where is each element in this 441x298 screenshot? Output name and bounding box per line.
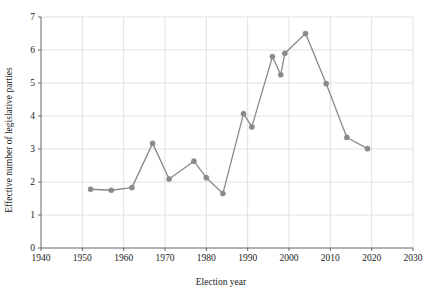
x-tick-label: 2020 (362, 253, 381, 263)
x-tick-label: 1960 (114, 253, 133, 263)
y-tick-label: 0 (30, 243, 35, 253)
x-tick-label: 1970 (156, 253, 175, 263)
data-point-marker (249, 124, 254, 129)
y-tick-label: 2 (30, 177, 35, 187)
y-tick-label: 5 (30, 78, 35, 88)
y-tick-label: 1 (30, 210, 35, 220)
chart-container: 01234567 1940195019601970198019902000201… (0, 0, 441, 298)
data-point-marker (278, 72, 283, 77)
y-tick-label: 6 (30, 45, 35, 55)
data-point-marker (191, 159, 196, 164)
x-tick-label: 2000 (280, 253, 299, 263)
data-point-marker (220, 191, 225, 196)
data-point-marker (282, 51, 287, 56)
y-tick-label: 4 (30, 111, 35, 121)
data-point-marker (303, 31, 308, 36)
data-point-marker (241, 111, 246, 116)
data-point-marker (344, 135, 349, 140)
x-tick-label: 1990 (238, 253, 257, 263)
x-tick-label: 1940 (32, 253, 51, 263)
y-axis-title: Effective number of legislative parties (4, 67, 14, 213)
data-point-marker (324, 81, 329, 86)
x-tick-label: 1980 (197, 253, 216, 263)
data-point-marker (270, 54, 275, 59)
data-point-marker (167, 176, 172, 181)
data-point-marker (365, 146, 370, 151)
data-point-marker (109, 188, 114, 193)
data-point-marker (129, 185, 134, 190)
y-tick-label: 7 (30, 12, 35, 22)
line-chart: 01234567 1940195019601970198019902000201… (0, 0, 441, 298)
data-point-marker (204, 175, 209, 180)
x-tick-label: 2030 (404, 253, 423, 263)
x-axis-title: Election year (196, 277, 247, 287)
data-point-marker (150, 141, 155, 146)
x-tick-label: 2010 (321, 253, 340, 263)
data-point-marker (88, 187, 93, 192)
y-tick-label: 3 (30, 144, 35, 154)
x-tick-label: 1950 (73, 253, 92, 263)
